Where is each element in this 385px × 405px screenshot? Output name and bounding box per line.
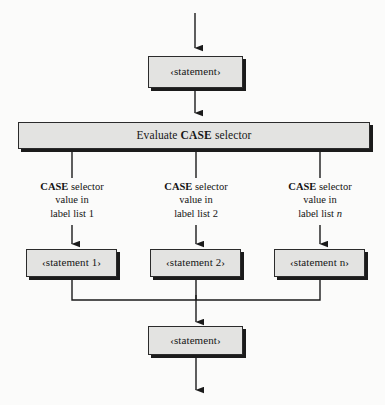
node-entry-statement-label: ‹statement› (170, 66, 221, 78)
node-exit-statement[interactable]: ‹statement› (148, 326, 243, 355)
case-selector-prefix: Evaluate (136, 129, 180, 141)
branch-label-n-line3-prefix: label list (298, 208, 337, 219)
case-keyword: CASE (180, 129, 211, 141)
node-branch-statement-n-label: ‹statement n› (290, 257, 349, 269)
node-branch-statement-n[interactable]: ‹statement n› (274, 249, 365, 277)
node-branch-statement-2-label: ‹statement 2› (166, 257, 225, 269)
branch-label-2: CASE selector value in label list 2 (136, 180, 256, 220)
case-selector-suffix: selector (212, 129, 252, 141)
node-branch-statement-1[interactable]: ‹statement 1› (26, 249, 117, 277)
branch-label-1: CASE selector value in label list 1 (12, 180, 132, 220)
branch-label-n-line1-rest: selector (316, 181, 351, 192)
branch-label-n-line2: value in (260, 193, 380, 206)
branch-label-1-line3-index: 1 (89, 208, 94, 219)
merge-line-left (72, 277, 196, 300)
branch-label-2-line1-rest: selector (192, 181, 227, 192)
branch-label-n-keyword: CASE (288, 181, 316, 192)
branch-label-1-line1-rest: selector (68, 181, 103, 192)
branch-label-2-line3-index: 2 (213, 208, 218, 219)
branch-label-1-line2: value in (12, 193, 132, 206)
branch-label-n: CASE selector value in label list n (260, 180, 380, 220)
branch-label-1-line3: label list 1 (12, 207, 132, 220)
branch-label-2-line2: value in (136, 193, 256, 206)
node-branch-statement-1-label: ‹statement 1› (42, 257, 101, 269)
branch-label-n-line3-index: n (337, 208, 342, 219)
branch-label-1-line1: CASE selector (12, 180, 132, 193)
flowchart-figure: ‹statement› Evaluate CASE selector CASE … (0, 0, 385, 405)
node-entry-statement[interactable]: ‹statement› (148, 56, 243, 88)
branch-label-2-line3: label list 2 (136, 207, 256, 220)
node-branch-statement-2[interactable]: ‹statement 2› (150, 249, 241, 277)
branch-label-2-line1: CASE selector (136, 180, 256, 193)
branch-label-2-line3-prefix: label list (174, 208, 213, 219)
branch-label-n-line3: label list n (260, 207, 380, 220)
merge-line-right (196, 277, 320, 300)
node-case-selector[interactable]: Evaluate CASE selector (18, 122, 370, 149)
node-case-selector-label: Evaluate CASE selector (136, 129, 251, 141)
node-exit-statement-label: ‹statement› (170, 335, 221, 347)
branch-label-1-line3-prefix: label list (50, 208, 89, 219)
branch-label-n-line1: CASE selector (260, 180, 380, 193)
branch-label-1-keyword: CASE (40, 181, 68, 192)
branch-label-2-keyword: CASE (164, 181, 192, 192)
